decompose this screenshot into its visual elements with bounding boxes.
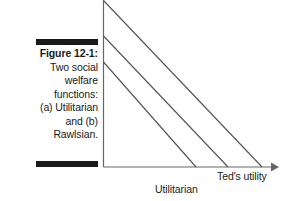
indifference-curve-1 — [104, 62, 197, 167]
figure-caption-title: Figure 12-1: — [0, 47, 98, 61]
x-axis-arrow-icon — [271, 163, 279, 172]
chart-subtitle-label: Utilitarian — [155, 183, 198, 195]
caption-rule-bottom — [36, 161, 98, 167]
x-axis-label: Ted's utility — [217, 170, 267, 182]
caption-line-6: Rawlsian. — [0, 128, 98, 142]
indifference-curve-2 — [104, 36, 229, 167]
welfare-function-plot — [99, 0, 306, 201]
caption-line-3: functions: — [0, 88, 98, 102]
caption-line-4: (a) Utilitarian — [0, 101, 98, 115]
caption-line-5: and (b) — [0, 115, 98, 129]
caption-line-2: welfare — [0, 74, 98, 88]
chart-area: Ted's utility Utilitarian — [99, 0, 306, 201]
caption-rule-top — [36, 39, 98, 45]
caption-line-1: Two social — [0, 61, 98, 75]
figure-caption-block: Figure 12-1: Two social welfare function… — [0, 0, 99, 201]
indifference-curve-3 — [104, 1, 263, 168]
figure-caption-text: Figure 12-1: Two social welfare function… — [0, 47, 98, 142]
